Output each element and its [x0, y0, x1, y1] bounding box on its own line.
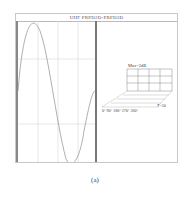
- sine-wave-plot: [18, 21, 95, 162]
- chart-frame: UHF PRPD2D-PRPD3D Max=2dB: [15, 13, 178, 163]
- phase-axis-labels: 0° 90° 180° 270° 360°: [102, 108, 138, 113]
- figure-caption: (a): [0, 176, 190, 184]
- 3d-grid: [97, 21, 179, 121]
- t-label: T=50: [157, 103, 166, 108]
- prpd2d-panel: [16, 21, 97, 162]
- prpd3d-panel: Max=2dB T=50 0° 90° 180° 270° 360°: [97, 21, 177, 162]
